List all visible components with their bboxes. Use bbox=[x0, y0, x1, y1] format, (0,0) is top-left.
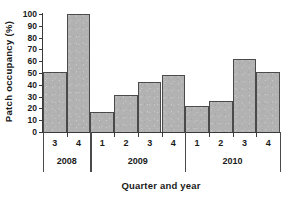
y-axis-tick-mark bbox=[39, 49, 43, 50]
bar-series bbox=[43, 14, 280, 132]
quarter-label: 4 bbox=[163, 137, 183, 150]
year-label: 2010 bbox=[185, 155, 280, 167]
bar bbox=[185, 106, 209, 132]
y-axis-tick-label: 20 bbox=[17, 104, 37, 112]
y-axis-tick-mark bbox=[39, 38, 43, 39]
bar bbox=[162, 75, 186, 132]
year-group-separator bbox=[280, 132, 281, 172]
y-axis-tick-label: 90 bbox=[17, 22, 37, 30]
year-label: 2009 bbox=[90, 155, 185, 167]
plot-area bbox=[42, 14, 280, 132]
quarter-label: 1 bbox=[92, 137, 112, 150]
y-axis-tick-label: 70 bbox=[17, 45, 37, 53]
bar bbox=[67, 14, 91, 132]
quarter-label: 3 bbox=[140, 137, 160, 150]
y-axis-tick-mark bbox=[39, 85, 43, 86]
bar bbox=[256, 72, 280, 132]
bar bbox=[138, 82, 162, 132]
quarter-label: 4 bbox=[258, 137, 278, 150]
y-axis-tick-mark bbox=[39, 97, 43, 98]
bar bbox=[90, 112, 114, 132]
quarter-label: 1 bbox=[187, 137, 207, 150]
y-axis-tick-label: 0 bbox=[17, 128, 37, 136]
y-axis-tick-label: 10 bbox=[17, 116, 37, 124]
bar bbox=[114, 95, 138, 132]
x-axis-year-band: 200820092010 bbox=[42, 151, 280, 173]
y-axis-tick-mark bbox=[39, 14, 43, 15]
quarter-label: 3 bbox=[234, 137, 254, 150]
y-axis-tick-labels: 1009080706050403020100 bbox=[18, 14, 40, 132]
y-axis-tick-label: 60 bbox=[17, 57, 37, 65]
y-axis-tick-mark bbox=[39, 120, 43, 121]
y-axis-tick-label: 50 bbox=[17, 69, 37, 77]
year-label: 2008 bbox=[43, 155, 90, 167]
y-axis-tick-label: 100 bbox=[17, 10, 37, 18]
quarter-label: 3 bbox=[45, 137, 65, 150]
y-axis-tick-label: 30 bbox=[17, 93, 37, 101]
y-axis-tick-mark bbox=[39, 73, 43, 74]
x-axis-quarter-band: 3412341234 bbox=[42, 132, 280, 152]
patch-occupancy-bar-chart: Patch occupancy (%) 10090807060504030201… bbox=[0, 0, 285, 209]
y-axis-title-text: Patch occupancy (%) bbox=[4, 20, 15, 121]
quarter-label: 2 bbox=[211, 137, 231, 150]
bar bbox=[233, 59, 257, 132]
y-axis-title: Patch occupancy (%) bbox=[0, 0, 18, 142]
y-axis-tick-mark bbox=[39, 108, 43, 109]
quarter-label: 2 bbox=[116, 137, 136, 150]
y-axis-tick-label: 40 bbox=[17, 81, 37, 89]
y-axis-tick-mark bbox=[39, 61, 43, 62]
x-axis-title: Quarter and year bbox=[42, 180, 280, 191]
y-axis-tick-label: 80 bbox=[17, 34, 37, 42]
bar bbox=[209, 101, 233, 132]
bar bbox=[43, 72, 67, 132]
y-axis-tick-mark bbox=[39, 26, 43, 27]
quarter-label: 4 bbox=[69, 137, 89, 150]
